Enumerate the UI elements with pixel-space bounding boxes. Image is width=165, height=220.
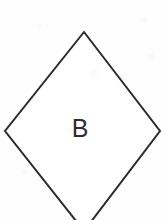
diagram-canvas: B [0, 0, 165, 220]
diamond-label: B [0, 113, 160, 143]
diamond-shape-svg [0, 0, 165, 220]
